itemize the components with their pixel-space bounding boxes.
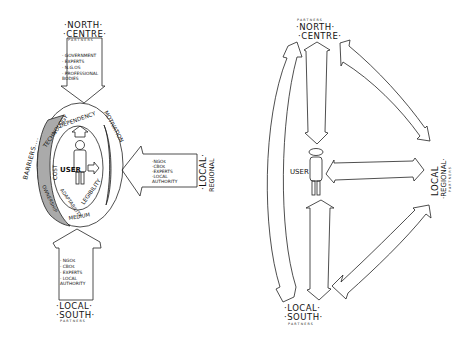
user-regional-arrow xyxy=(326,158,424,183)
user-label-left: USER xyxy=(60,166,82,174)
south-regional-curved-arrow xyxy=(332,205,431,299)
left-east-items: ·NGOs ·CBOs ·EXPERTS ·LOCAL AUTHORITY ·L… xyxy=(152,153,216,192)
medium-label: MEDIUM xyxy=(68,211,90,221)
south-item: · NGOs xyxy=(60,258,76,263)
right-east-label: LOCAL ·REGIONAL· PARTNERS xyxy=(430,158,452,199)
cost-label: COST xyxy=(52,164,58,180)
north-user-arrow xyxy=(304,42,330,144)
right-east-line1: LOCAL xyxy=(430,166,440,196)
north-item: · EXPERTS xyxy=(62,59,84,64)
north-item: · GOVERNMENT xyxy=(62,53,97,58)
right-north-line2: ·CENTRE· xyxy=(298,31,342,41)
north-regional-curved-arrow xyxy=(340,40,430,141)
south-item: · EXPERTS xyxy=(60,270,82,275)
user-label-right: USER xyxy=(290,168,309,176)
east-local-label: ·LOCAL· xyxy=(198,153,208,190)
right-south-label: ·LOCAL· ·SOUTH· PARTNERS xyxy=(284,303,323,326)
south-item: · CBOs xyxy=(60,264,75,269)
user-figure-right xyxy=(309,149,323,196)
right-east-line2: ·REGIONAL· xyxy=(440,158,448,199)
south-user-arrow xyxy=(306,200,334,300)
south-item: AUTHORITY xyxy=(60,281,86,286)
right-south-partners: PARTNERS xyxy=(288,322,314,326)
east-regional-label: REGIONAL xyxy=(208,158,216,192)
motivation-label: MOTIVATION xyxy=(103,110,125,144)
right-east-partners: PARTNERS xyxy=(448,166,452,192)
right-north-label: PARTNERS ·NORTH· ·CENTRE· xyxy=(296,18,342,41)
barriers-label: BARRIERS.... xyxy=(21,136,39,180)
east-item: AUTHORITY xyxy=(152,179,178,184)
south-partners: PARTNERS xyxy=(60,319,86,323)
diagram-canvas: ·NORTH· ·CENTRE· PARTNERS · GOVERNMENT ·… xyxy=(0,0,473,340)
north-item: BODIES xyxy=(62,76,79,81)
left-south-label: · NGOs · CBOs · EXPERTS · LOCAL AUTHORIT… xyxy=(56,258,95,323)
north-item: · N.G.OS xyxy=(62,65,81,70)
left-north-label: ·NORTH· ·CENTRE· PARTNERS · GOVERNMENT ·… xyxy=(62,20,107,81)
user-figure-left xyxy=(72,126,99,184)
right-south-line2: ·SOUTH· xyxy=(284,312,323,322)
north-partners: PARTNERS xyxy=(68,38,94,42)
